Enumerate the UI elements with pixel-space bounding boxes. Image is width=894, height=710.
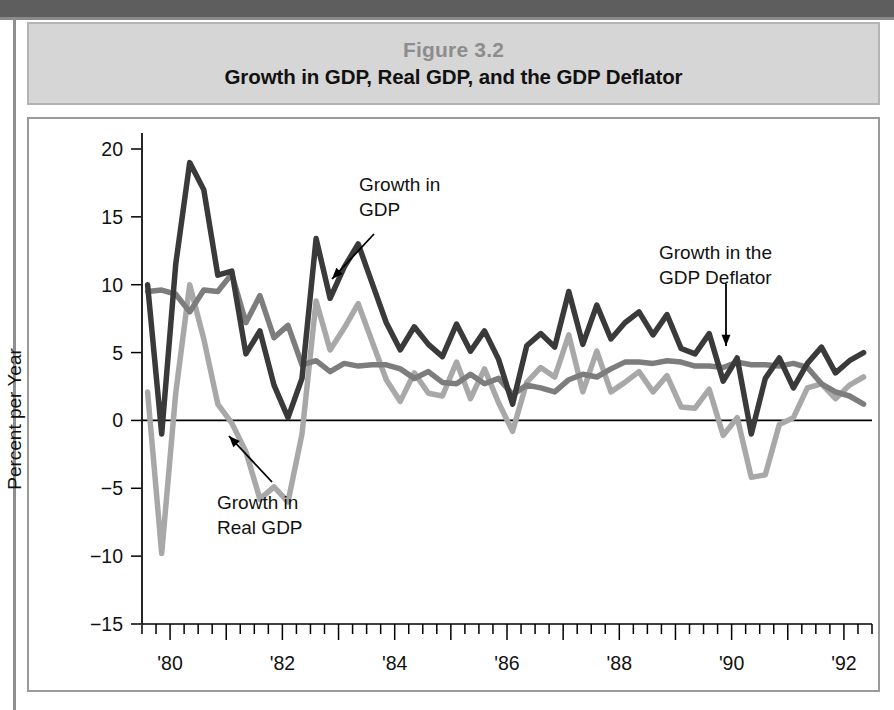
x-axis-tick-label: '88 <box>607 652 632 674</box>
line-chart: 20151050−5−10−15'80'82'84'86'88'90'92Gro… <box>29 119 878 690</box>
figure-number: Figure 3.2 <box>403 38 504 61</box>
annotation-line: Growth in the <box>659 242 772 263</box>
y-axis-tick-label: 20 <box>101 138 123 160</box>
x-axis-tick-label: '80 <box>157 652 183 674</box>
y-axis-tick-label: −10 <box>90 545 123 567</box>
plot-frame: Percent per Year 20151050−5−10−15'80'82'… <box>27 117 880 692</box>
annotation-growth-in-gdp: Growth inGDP <box>359 174 440 220</box>
y-axis-tick-label: 0 <box>112 409 123 431</box>
x-axis-tick-label: '84 <box>382 652 408 674</box>
annotation-line: GDP Deflator <box>659 267 772 288</box>
page-top-band-shadow <box>0 17 894 20</box>
y-axis-tick-label: 15 <box>101 206 123 228</box>
annotation-growth-in-real-gdp: Growth inReal GDP <box>217 492 303 538</box>
figure-caption-box: Figure 3.2 Growth in GDP, Real GDP, and … <box>27 22 880 105</box>
x-axis-tick-label: '90 <box>719 652 745 674</box>
figure-page: Figure 3.2 Growth in GDP, Real GDP, and … <box>0 0 894 710</box>
annotation-line: Real GDP <box>217 517 303 538</box>
series-line-growth-in-gdp <box>148 163 864 434</box>
annotation-growth-in-gdp-deflator: Growth in theGDP Deflator <box>659 242 772 288</box>
y-axis-label: Percent per Year <box>4 348 26 490</box>
x-axis-tick-label: '92 <box>831 652 856 674</box>
y-axis-tick-label: 10 <box>101 274 123 296</box>
annotation-line: GDP <box>359 199 400 220</box>
x-axis-tick-label: '86 <box>494 652 519 674</box>
y-axis-tick-label: −15 <box>90 613 123 635</box>
annotation-line: Growth in <box>359 174 440 195</box>
annotation-line: Growth in <box>217 492 298 513</box>
y-axis-tick-label: 5 <box>112 342 123 364</box>
y-axis-tick-label: −5 <box>101 477 123 499</box>
x-axis-tick-label: '82 <box>270 652 295 674</box>
annotation-arrowhead-growth-in-gdp-deflator <box>722 335 731 346</box>
page-top-band <box>0 0 894 17</box>
figure-title: Growth in GDP, Real GDP, and the GDP Def… <box>225 65 683 89</box>
